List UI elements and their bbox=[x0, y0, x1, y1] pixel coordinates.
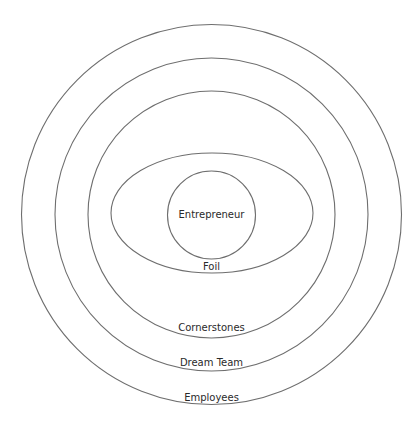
foil-label: Foil bbox=[203, 261, 220, 272]
entrepreneur-label: Entrepreneur bbox=[179, 209, 246, 220]
concentric-diagram: Entrepreneur Foil Cornerstones Dream Tea… bbox=[0, 0, 420, 429]
cornerstones-label: Cornerstones bbox=[178, 322, 245, 333]
dream-team-label: Dream Team bbox=[180, 357, 243, 368]
employees-label: Employees bbox=[184, 392, 239, 403]
